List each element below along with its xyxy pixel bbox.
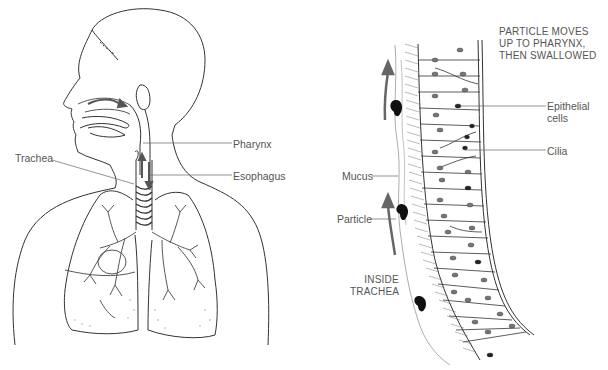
epithelial-cells-label-line-2: cells — [547, 112, 590, 124]
cilia-label: Cilia — [547, 145, 567, 157]
epithelial-cells-label: Epithelial cells — [547, 100, 590, 124]
epithelial-cells-label-line-1: Epithelial — [547, 100, 590, 112]
caption-top-line-2: UP TO PHARYNX, — [499, 38, 596, 50]
esophagus-label: Esophagus — [233, 170, 286, 182]
respiratory-system-illustration — [0, 0, 300, 370]
caption-bottom: INSIDE TRACHEA — [350, 274, 399, 298]
pharynx-label: Pharynx — [233, 138, 272, 150]
caption-bottom-line-1: INSIDE — [350, 274, 399, 286]
caption-bottom-line-2: TRACHEA — [350, 286, 399, 298]
ciliated-epithelium-panel: PARTICLE MOVES UP TO PHARYNX, THEN SWALL… — [300, 0, 608, 370]
mucus-label: Mucus — [342, 170, 373, 182]
caption-top: PARTICLE MOVES UP TO PHARYNX, THEN SWALL… — [499, 26, 596, 62]
trachea-label: Trachea — [15, 152, 53, 164]
respiratory-system-panel: Pharynx Esophagus Trachea — [0, 0, 300, 370]
caption-top-line-1: PARTICLE MOVES — [499, 26, 596, 38]
caption-top-line-3: THEN SWALLOWED — [499, 50, 596, 62]
particle-label: Particle — [337, 213, 372, 225]
